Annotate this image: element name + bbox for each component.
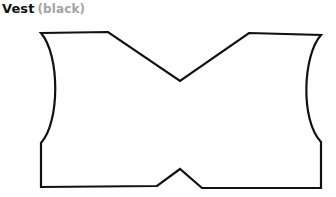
vest-outline xyxy=(41,32,321,188)
vest-pattern-shape xyxy=(0,0,336,197)
